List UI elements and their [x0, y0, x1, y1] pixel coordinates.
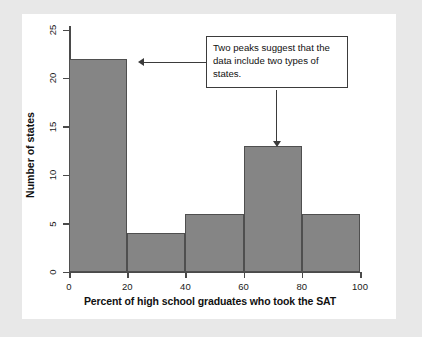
annotation-arrowhead-left-icon: [138, 58, 144, 66]
y-tick-label-25-text: 25: [47, 25, 58, 36]
bar-80-100: [302, 214, 360, 272]
y-tick-label-0: 0: [44, 265, 60, 279]
x-tick-label-60: 60: [224, 281, 264, 292]
bar-20-40: [127, 233, 185, 272]
y-tick-label-10: 10: [44, 168, 60, 182]
x-axis-title: Percent of high school graduates who too…: [30, 295, 390, 307]
y-tick-label-5: 5: [44, 217, 60, 231]
y-tick-label-15-text: 15: [47, 122, 58, 133]
y-tick-25: [63, 30, 69, 32]
x-tick-100: [360, 272, 362, 278]
y-axis-title: Number of states: [22, 100, 38, 210]
x-tick-label-80: 80: [282, 281, 322, 292]
histogram-plot: 0 5 10 15 20 25 0 20 40 60 80 100 Percen…: [0, 0, 422, 337]
y-tick-label-20: 20: [44, 71, 60, 85]
x-tick-label-100: 100: [340, 281, 380, 292]
x-tick-40: [185, 272, 187, 278]
y-tick-label-10-text: 10: [47, 170, 58, 181]
bar-60-80: [244, 146, 302, 272]
y-tick-label-5-text: 5: [47, 221, 58, 226]
annotation-arrowhead-down-icon: [273, 141, 281, 147]
x-tick-label-20: 20: [107, 281, 147, 292]
x-tick-80: [302, 272, 304, 278]
annotation-leader-horizontal: [142, 62, 206, 63]
y-axis-title-text: Number of states: [24, 112, 36, 198]
x-tick-label-40: 40: [165, 281, 205, 292]
y-tick-label-20-text: 20: [47, 73, 58, 84]
annotation-leader-vertical: [276, 90, 277, 143]
x-tick-0: [69, 272, 71, 278]
bar-0-20: [69, 59, 127, 272]
y-tick-label-15: 15: [44, 120, 60, 134]
bar-40-60: [185, 214, 243, 272]
figure-background: 0 5 10 15 20 25 0 20 40 60 80 100 Percen…: [0, 0, 422, 337]
annotation-callout: Two peaks suggest that the data include …: [206, 36, 348, 88]
x-tick-60: [244, 272, 246, 278]
y-tick-label-25: 25: [44, 23, 60, 37]
y-tick-label-0-text: 0: [47, 269, 58, 274]
x-tick-label-0: 0: [49, 281, 89, 292]
x-tick-20: [127, 272, 129, 278]
